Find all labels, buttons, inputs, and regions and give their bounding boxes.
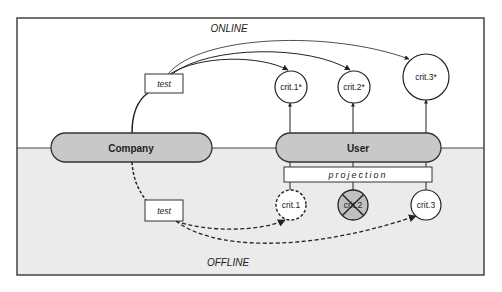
online-offline-diagram: ONLINE OFFLINE Company User projection t… — [0, 0, 502, 292]
online-crit2: crit.2* — [338, 71, 370, 103]
online-crit2-label: crit.2* — [343, 82, 365, 92]
offline-crit3-label: crit.3 — [417, 200, 436, 210]
offline-test-box: test — [145, 200, 183, 221]
online-label: ONLINE — [210, 23, 248, 34]
online-crit1-label: crit.1* — [280, 82, 302, 92]
projection-bar: projection — [284, 167, 432, 182]
company-entity: Company — [51, 133, 212, 162]
projection-label: projection — [327, 170, 387, 180]
online-crit3-label: crit.3* — [415, 72, 437, 82]
online-crit3: crit.3* — [403, 54, 449, 100]
offline-crit3: crit.3 — [411, 190, 441, 220]
offline-label: OFFLINE — [207, 257, 250, 268]
online-crit1: crit.1* — [275, 71, 307, 103]
company-label: Company — [108, 143, 154, 154]
online-test-label: test — [157, 79, 171, 89]
user-label: User — [347, 143, 369, 154]
user-entity: User — [276, 133, 441, 162]
offline-crit2: crit.2 — [338, 190, 368, 220]
online-test-box: test — [145, 74, 183, 93]
offline-crit1: crit.1 — [276, 190, 306, 220]
offline-test-label: test — [157, 206, 171, 216]
offline-crit1-label: crit.1 — [282, 200, 301, 210]
